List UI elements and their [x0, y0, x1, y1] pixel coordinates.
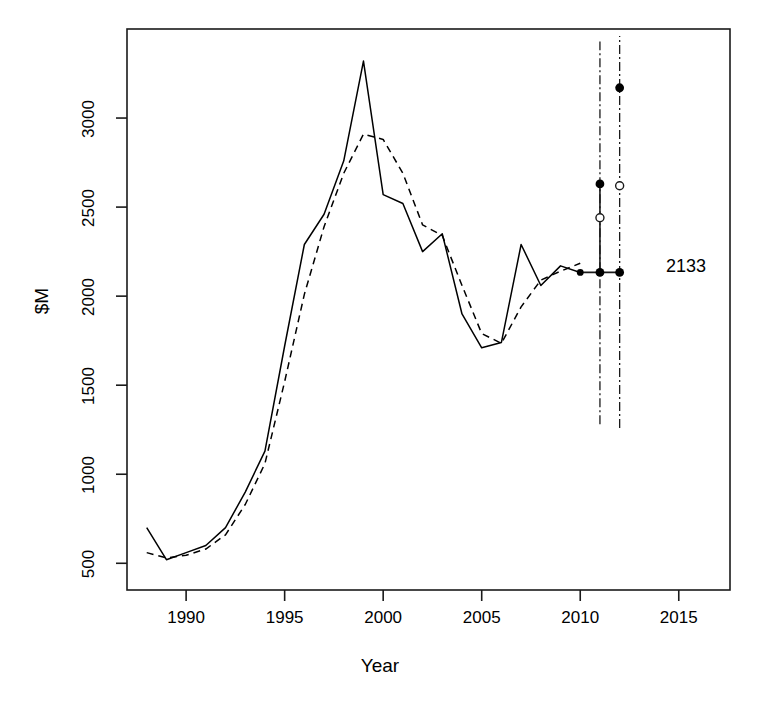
x-tick-label: 2015: [649, 608, 709, 628]
forecast-value-annotation: 2133: [666, 256, 706, 277]
y-axis-title: $M: [31, 281, 53, 321]
y-tick-label: 2000: [79, 270, 99, 324]
x-axis-title: Year: [300, 655, 460, 677]
chart-figure: $M Year 2133 199019952000200520102015500…: [0, 0, 758, 705]
y-tick-label: 2500: [79, 181, 99, 235]
x-tick-label: 1995: [255, 608, 315, 628]
figure-background: [0, 0, 758, 705]
x-tick-label: 2000: [353, 608, 413, 628]
y-tick-label: 1500: [79, 359, 99, 413]
y-tick-label: 3000: [79, 92, 99, 146]
chart-canvas: [0, 0, 758, 705]
x-tick-label: 1990: [156, 608, 216, 628]
x-tick-label: 2010: [550, 608, 610, 628]
x-tick-label: 2005: [452, 608, 512, 628]
y-tick-label: 500: [79, 537, 99, 591]
y-tick-label: 1000: [79, 448, 99, 502]
